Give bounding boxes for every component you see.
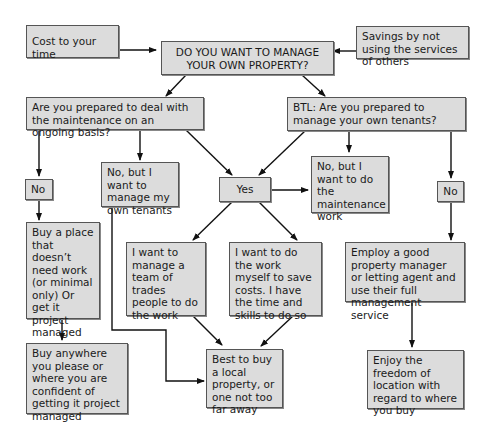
node-employ-manager: Employ a good property manager or lettin…	[345, 242, 465, 302]
node-yes: Yes	[219, 177, 271, 202]
node-savings: Savings by not using the services of oth…	[356, 26, 469, 59]
node-no-right: No	[437, 181, 464, 202]
node-buy-anywhere: Buy anywhere you please or where you are…	[26, 343, 128, 414]
node-maintenance-question: Are you prepared to deal with the mainte…	[26, 97, 204, 130]
arrow-yes-to-trades	[193, 202, 232, 240]
node-buy-local: Best to buy a local property, or one not…	[206, 349, 283, 408]
node-btl-question: BTL: Are you prepared to manage your own…	[287, 97, 466, 131]
node-no-left: No	[25, 179, 53, 200]
node-cost-to-your-time: Cost to your time	[26, 25, 119, 58]
arrow-trades-to-local	[192, 315, 222, 345]
arrow-yes-to-self	[259, 202, 297, 240]
arrow-maint-to-yes	[186, 130, 232, 175]
node-do-work-myself: I want to do the work myself to save cos…	[229, 242, 322, 316]
arrow-main-to-btl	[302, 75, 325, 96]
node-main-question: DO YOU WANT TO MANAGE YOUR OWN PROPERTY?	[161, 41, 334, 75]
arrow-main-to-maintenance	[166, 75, 186, 96]
node-no-manage-tenants: No, but I want to manage my own tenants	[101, 162, 179, 207]
node-enjoy-freedom: Enjoy the freedom of location with regar…	[367, 350, 464, 409]
arrow-btl-to-yes	[259, 131, 305, 175]
node-manage-trades: I want to manage a team of trades people…	[126, 242, 206, 316]
node-no-maintenance-work: No, but I want to do the maintenance wor…	[311, 156, 389, 213]
node-buy-no-work: Buy a place that doesn’t need work (or m…	[26, 222, 100, 319]
